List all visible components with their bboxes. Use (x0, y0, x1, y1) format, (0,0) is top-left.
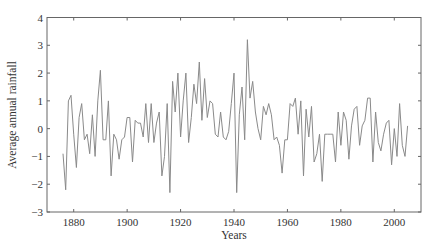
x-tick-label: 1960 (276, 216, 299, 228)
x-tick-label: 2000 (383, 216, 406, 228)
y-tick-label: 4 (38, 12, 44, 24)
y-tick-label: −3 (31, 206, 43, 218)
x-tick-label: 1940 (223, 216, 246, 228)
x-tick-label: 1920 (170, 216, 193, 228)
x-tick-label: 1980 (330, 216, 353, 228)
y-tick-label: 2 (38, 67, 44, 79)
x-axis-label: Years (221, 229, 247, 241)
y-tick-label: −1 (31, 150, 43, 162)
y-tick-label: 0 (38, 123, 44, 135)
y-tick-label: 1 (38, 95, 44, 107)
y-tick-label: 3 (38, 39, 44, 51)
x-tick-label: 1900 (116, 216, 139, 228)
x-tick-label: 1880 (63, 216, 86, 228)
plot-area (47, 18, 421, 213)
rainfall-line-chart: 1880190019201940196019802000 −3−2−101234… (0, 0, 440, 246)
y-axis-label: Average annual rainfall (6, 61, 19, 169)
y-tick-label: −2 (31, 178, 43, 190)
